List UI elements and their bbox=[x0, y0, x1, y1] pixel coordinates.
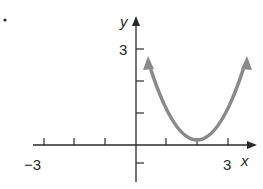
figure-label-fragment bbox=[3, 18, 6, 21]
x-axis: −3 3 x bbox=[24, 138, 257, 173]
y-axis: 3 y bbox=[119, 13, 144, 182]
y-tick-label-3: 3 bbox=[119, 41, 127, 58]
y-axis-arrow-icon bbox=[132, 16, 140, 26]
curve-right-arrow-icon bbox=[241, 56, 252, 70]
curve-left-arrow-icon bbox=[143, 56, 154, 70]
y-axis-ticks bbox=[136, 49, 144, 163]
x-axis-label: x bbox=[240, 152, 249, 169]
parabola-chart: −3 3 x 3 y bbox=[0, 0, 263, 189]
y-axis-label: y bbox=[119, 13, 129, 30]
x-tick-label-3: 3 bbox=[223, 156, 231, 173]
x-tick-label-neg3: −3 bbox=[24, 156, 41, 173]
parabola-curve bbox=[143, 56, 252, 140]
x-axis-arrow-icon bbox=[247, 141, 257, 149]
